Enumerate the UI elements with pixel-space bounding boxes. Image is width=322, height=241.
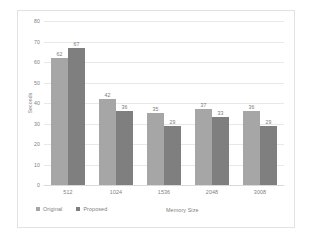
bar-group: 3629 xyxy=(236,21,284,185)
legend-item[interactable]: Proposed xyxy=(76,206,107,212)
bar-column: 36 xyxy=(243,21,260,185)
bar-column: 36 xyxy=(116,21,133,185)
bar[interactable] xyxy=(116,111,133,185)
bar-value-label: 36 xyxy=(122,104,128,110)
bar-column: 62 xyxy=(51,21,68,185)
y-axis-tick-label: 30 xyxy=(34,121,40,127)
bar-column: 35 xyxy=(147,21,164,185)
y-axis-tick-label: 20 xyxy=(34,141,40,147)
bar-value-label: 42 xyxy=(105,92,111,98)
bar[interactable] xyxy=(99,99,116,185)
bar[interactable] xyxy=(195,109,212,185)
y-axis-tick-label: 70 xyxy=(34,39,40,45)
bar-column: 33 xyxy=(212,21,229,185)
legend-swatch-icon xyxy=(76,207,80,211)
x-axis-tick-label: 1024 xyxy=(110,189,122,195)
y-axis-tick-label: 0 xyxy=(37,182,40,188)
bar-column: 37 xyxy=(195,21,212,185)
bar-group: 4236 xyxy=(92,21,140,185)
bar-column: 29 xyxy=(164,21,181,185)
chart-legend: OriginalProposed xyxy=(36,206,107,212)
gridline xyxy=(44,185,284,186)
y-axis-tick-label: 50 xyxy=(34,80,40,86)
bar[interactable] xyxy=(147,113,164,185)
x-axis-tick-label: 3008 xyxy=(254,189,266,195)
y-axis-tick-label: 80 xyxy=(34,18,40,24)
legend-swatch-icon xyxy=(36,207,40,211)
bar-group: 3529 xyxy=(140,21,188,185)
y-axis-tick-label: 60 xyxy=(34,59,40,65)
bar-value-label: 29 xyxy=(266,119,272,125)
bar-value-label: 35 xyxy=(153,106,159,112)
bar-group: 3733 xyxy=(188,21,236,185)
y-axis-tick-label: 10 xyxy=(34,162,40,168)
bar-value-label: 62 xyxy=(57,51,63,57)
chart-frame: Seconds 01020304050607080 62674236352937… xyxy=(17,10,295,228)
bar[interactable] xyxy=(51,58,68,185)
bar-column: 29 xyxy=(260,21,277,185)
bar-value-label: 37 xyxy=(201,102,207,108)
x-axis-tick-label: 1536 xyxy=(158,189,170,195)
y-axis-tick-label: 40 xyxy=(34,100,40,106)
x-axis-tick-labels: 5121024153620483008 xyxy=(44,189,284,201)
bar[interactable] xyxy=(212,117,229,185)
x-axis-title: Memory Size xyxy=(166,207,199,213)
bar-value-label: 33 xyxy=(218,110,224,116)
x-axis-tick-label: 512 xyxy=(63,189,72,195)
x-axis-tick-label: 2048 xyxy=(206,189,218,195)
bar-value-label: 36 xyxy=(249,104,255,110)
bar[interactable] xyxy=(260,126,277,185)
bar[interactable] xyxy=(68,48,85,185)
legend-label: Original xyxy=(43,206,62,212)
bar-group: 6267 xyxy=(44,21,92,185)
bar-column: 67 xyxy=(68,21,85,185)
bars-layer: 62674236352937333629 xyxy=(44,21,284,185)
bar-value-label: 29 xyxy=(170,119,176,125)
bar-value-label: 67 xyxy=(74,41,80,47)
legend-item[interactable]: Original xyxy=(36,206,62,212)
legend-label: Proposed xyxy=(83,206,107,212)
bar[interactable] xyxy=(164,126,181,185)
plot-area: 01020304050607080 62674236352937333629 xyxy=(44,21,284,185)
y-axis-title: Seconds xyxy=(27,93,33,114)
bar-column: 42 xyxy=(99,21,116,185)
bar[interactable] xyxy=(243,111,260,185)
